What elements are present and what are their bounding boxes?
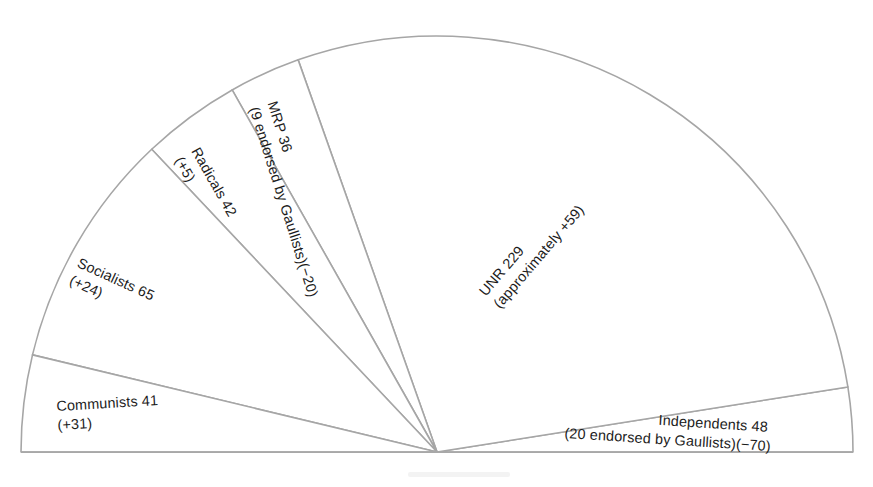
scan-artifact [408, 472, 510, 477]
semicircle-chart-canvas [0, 0, 873, 487]
seat-diagram-figure: Communists 41 (+31) Socialists 65 (+24) … [0, 0, 873, 487]
